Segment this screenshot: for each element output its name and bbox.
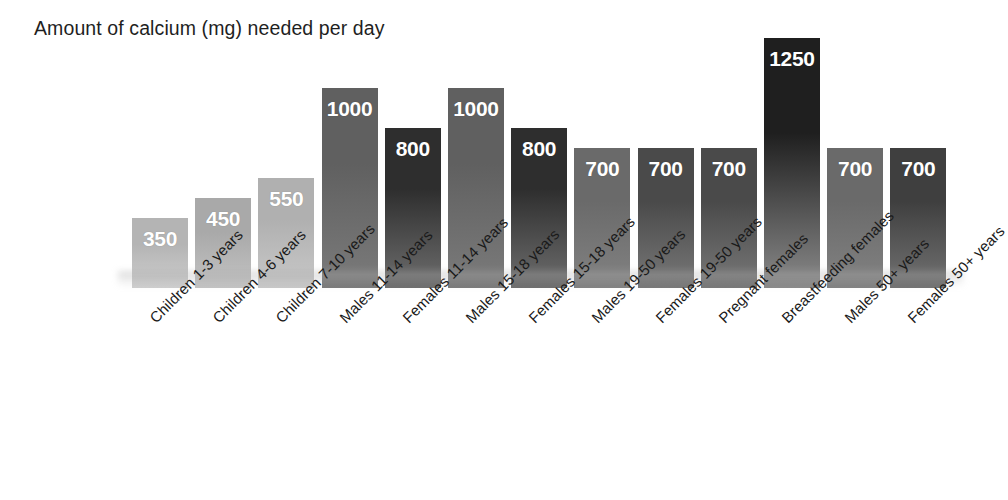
bar-value-label: 700	[574, 158, 630, 179]
bar-value-label: 1000	[322, 98, 378, 119]
bar-value-label: 550	[258, 188, 314, 209]
bar-value-label: 700	[638, 158, 694, 179]
x-axis-labels: Children 1-3 yearsChildren 4-6 yearsChil…	[0, 290, 990, 500]
bar-value-label: 700	[827, 158, 883, 179]
bar-value-label: 700	[701, 158, 757, 179]
plot-area: 3504505501000800100080070070070012507007…	[0, 0, 990, 290]
bar-value-label: 1250	[764, 48, 820, 69]
bar-value-label: 450	[195, 208, 251, 229]
bar-value-label: 700	[890, 158, 946, 179]
bar-value-label: 1000	[448, 98, 504, 119]
bar-value-label: 800	[511, 138, 567, 159]
bar-group[interactable]: 350	[132, 218, 188, 288]
bar-value-label: 350	[132, 228, 188, 249]
bar-value-label: 800	[385, 138, 441, 159]
